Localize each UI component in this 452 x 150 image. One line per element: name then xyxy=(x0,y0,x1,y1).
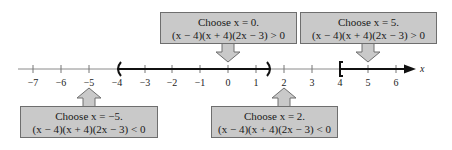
test-point-result: (x − 4)(x + 4)(2x − 3) > 0 xyxy=(161,29,296,42)
tick-label: −1 xyxy=(195,77,206,88)
up-arrow-icon xyxy=(272,88,296,107)
test-point-box-x-2: Choose x = 2. (x − 4)(x + 4)(2x − 3) < 0 xyxy=(211,106,338,138)
tick-label: 6 xyxy=(394,77,399,88)
test-point-box-x-5: Choose x = 5. (x − 4)(x + 4)(2x − 3) > 0 xyxy=(300,12,437,44)
down-arrow-icon xyxy=(356,43,380,62)
test-point-choice: Choose x = −5. xyxy=(21,110,157,123)
tick-label: −3 xyxy=(140,77,151,88)
tick-label: −7 xyxy=(28,77,39,88)
test-point-choice: Choose x = 0. xyxy=(161,16,296,29)
test-point-box-x-0: Choose x = 0. (x − 4)(x + 4)(2x − 3) > 0 xyxy=(160,12,297,44)
tick-label: 5 xyxy=(366,77,371,88)
test-point-choice: Choose x = 2. xyxy=(212,110,337,123)
tick-label: 1 xyxy=(254,77,259,88)
tick-label: 2 xyxy=(282,77,287,88)
tick-labels: −7 −6 −5 −4 −3 −2 −1 0 1 2 3 4 5 6 xyxy=(28,77,399,88)
tick-label: −5 xyxy=(84,77,95,88)
tick-label: 4 xyxy=(338,77,343,88)
tick-label: 0 xyxy=(226,77,231,88)
test-point-result: (x − 4)(x + 4)(2x − 3) < 0 xyxy=(21,123,157,136)
tick-label: −2 xyxy=(167,77,178,88)
up-arrow-icon xyxy=(77,88,101,107)
test-point-box-x-neg5: Choose x = −5. (x − 4)(x + 4)(2x − 3) < … xyxy=(20,106,158,138)
test-point-result: (x − 4)(x + 4)(2x − 3) < 0 xyxy=(212,123,337,136)
tick-label: −6 xyxy=(56,77,67,88)
test-point-choice: Choose x = 5. xyxy=(301,16,436,29)
tick-label: −4 xyxy=(112,77,123,88)
axis-variable-label: x xyxy=(419,63,425,74)
test-point-result: (x − 4)(x + 4)(2x − 3) > 0 xyxy=(301,29,436,42)
tick-label: 3 xyxy=(310,77,315,88)
down-arrow-icon xyxy=(216,43,240,62)
